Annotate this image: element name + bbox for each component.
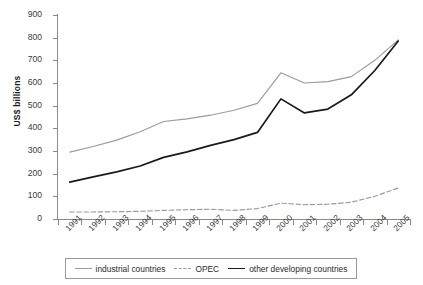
- legend-item[interactable]: OPEC: [174, 264, 219, 274]
- line-dashed-gray-icon: [174, 268, 191, 269]
- y-axis-tick-label: 300: [16, 146, 42, 155]
- y-axis-tick-label: 200: [16, 169, 42, 178]
- y-axis-tick-label: 700: [16, 55, 42, 64]
- series-lines: [58, 15, 410, 219]
- x-axis-tick-mark: [58, 220, 59, 225]
- y-axis-tick-labels: 9008007006005004003002001000: [14, 0, 42, 285]
- line-solid-black-icon: [228, 268, 245, 269]
- y-axis-tick-label: 800: [16, 33, 42, 42]
- y-axis-tick-label: 0: [16, 214, 42, 223]
- legend-item[interactable]: industrial countries: [75, 264, 166, 274]
- series-line-opec: [70, 188, 399, 212]
- line-chart: US$ billions 900800700600500400300200100…: [0, 0, 423, 285]
- y-axis-tick-label: 500: [16, 101, 42, 110]
- legend-item-label: industrial countries: [96, 264, 166, 274]
- y-axis-tick-label: 100: [16, 191, 42, 200]
- chart-legend: industrial countriesOPECother developing…: [65, 258, 357, 279]
- legend-item-label: other developing countries: [249, 264, 347, 274]
- line-solid-gray-icon: [75, 268, 92, 269]
- plot-area: [58, 15, 410, 219]
- y-axis-tick-label: 400: [16, 123, 42, 132]
- y-axis-tick-label: 900: [16, 10, 42, 19]
- legend-item[interactable]: other developing countries: [228, 264, 347, 274]
- y-axis-tick-label: 600: [16, 78, 42, 87]
- legend-item-label: OPEC: [195, 264, 219, 274]
- series-line-other-developing-countries: [70, 41, 399, 182]
